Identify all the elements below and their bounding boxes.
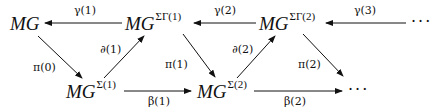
node-mg-sigma-2: MGΣ(2) xyxy=(197,82,247,101)
node-base: MG xyxy=(66,81,96,102)
node-mg-sigma-gamma-2: MGΣΓ(2) xyxy=(259,14,315,33)
label-gamma-1: γ(1) xyxy=(74,5,96,16)
label-gamma-3: γ(3) xyxy=(354,5,376,16)
node-mg-base: MG xyxy=(10,13,40,34)
label-partial-1: ∂(1) xyxy=(100,44,121,55)
label-pi-0: π(0) xyxy=(33,62,56,73)
node-base: MG xyxy=(125,13,155,34)
node-mg-sigma-1: MGΣ(1) xyxy=(66,82,116,101)
node-superscript: Σ(1) xyxy=(97,78,116,90)
bottom-ellipsis: ··· xyxy=(348,82,369,98)
node-superscript: ΣΓ(1) xyxy=(156,10,182,22)
node-base: MG xyxy=(197,81,227,102)
label-pi-1: π(1) xyxy=(165,59,188,70)
node-superscript: Σ(2) xyxy=(228,78,247,90)
label-beta-2: β(2) xyxy=(284,96,306,107)
commutative-diagram: MG MGΣΓ(1) MGΣΓ(2) MGΣ(1) MGΣ(2) ··· ···… xyxy=(0,0,440,112)
label-pi-2: π(2) xyxy=(298,59,321,70)
label-partial-2: ∂(2) xyxy=(232,44,253,55)
label-gamma-2: γ(2) xyxy=(214,5,236,16)
node-mg: MG xyxy=(10,14,40,33)
label-beta-1: β(1) xyxy=(148,96,170,107)
node-superscript: ΣΓ(2) xyxy=(290,10,316,22)
node-base: MG xyxy=(259,13,289,34)
node-mg-sigma-gamma-1: MGΣΓ(1) xyxy=(125,14,181,33)
top-ellipsis: ··· xyxy=(411,14,432,30)
